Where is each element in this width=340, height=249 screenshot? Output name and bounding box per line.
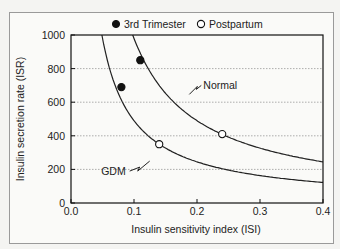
leader-normal bbox=[189, 85, 201, 94]
curve-gdm bbox=[102, 35, 323, 182]
legend-filled-circle-icon bbox=[112, 20, 119, 27]
x-axis-label: Insulin sensitivity index (ISI) bbox=[131, 223, 261, 235]
annotations: NormalGDM bbox=[101, 79, 237, 177]
y-tick-label: 1000 bbox=[42, 29, 66, 41]
legend-label-third-trimester: 3rd Trimester bbox=[124, 18, 186, 30]
x-tick-label: 0.0 bbox=[64, 205, 79, 217]
point-postpartum bbox=[156, 141, 163, 148]
legend-label-postpartum: Postpartum bbox=[209, 18, 263, 30]
y-tick-label: 600 bbox=[47, 96, 65, 108]
chart: 020040060080010000.00.10.20.30.4 NormalG… bbox=[0, 0, 340, 249]
curves bbox=[102, 35, 323, 182]
point-third-trimester bbox=[118, 83, 125, 90]
label-gdm: GDM bbox=[101, 165, 126, 177]
x-tick-label: 0.3 bbox=[253, 205, 268, 217]
legend: 3rd TrimesterPostpartum bbox=[112, 18, 263, 30]
y-tick-label: 800 bbox=[47, 63, 65, 75]
legend-open-circle-icon bbox=[197, 20, 204, 27]
y-tick-label: 400 bbox=[47, 130, 65, 142]
x-tick-label: 0.1 bbox=[127, 205, 142, 217]
axis-ticks: 020040060080010000.00.10.20.30.4 bbox=[42, 29, 331, 217]
point-third-trimester bbox=[137, 57, 144, 64]
x-tick-label: 0.4 bbox=[316, 205, 331, 217]
plot-area bbox=[71, 35, 323, 203]
y-axis-label: Insulin secretion rate (ISR) bbox=[14, 57, 26, 181]
label-normal: Normal bbox=[203, 79, 237, 91]
y-tick-label: 200 bbox=[47, 163, 65, 175]
x-tick-label: 0.2 bbox=[190, 205, 205, 217]
point-postpartum bbox=[219, 131, 226, 138]
